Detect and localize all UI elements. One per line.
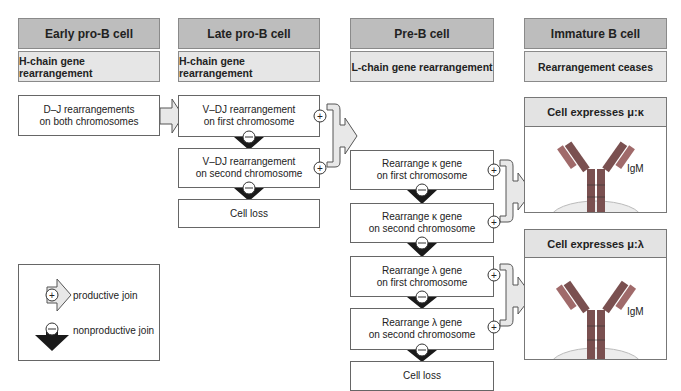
svg-text:+: + [491, 217, 497, 228]
svg-text:+: + [317, 111, 323, 122]
svg-text:+: + [49, 290, 55, 301]
svg-text:+: + [491, 270, 497, 281]
legend-symbols: + [19, 265, 161, 362]
legend-nonproductive-label: nonproductive join [73, 325, 154, 336]
svg-text:+: + [491, 322, 497, 333]
svg-text:+: + [491, 165, 497, 176]
svg-text:+: + [317, 163, 323, 174]
legend-box: + productive join nonproductive join [18, 264, 160, 361]
legend-productive-label: productive join [73, 290, 137, 301]
